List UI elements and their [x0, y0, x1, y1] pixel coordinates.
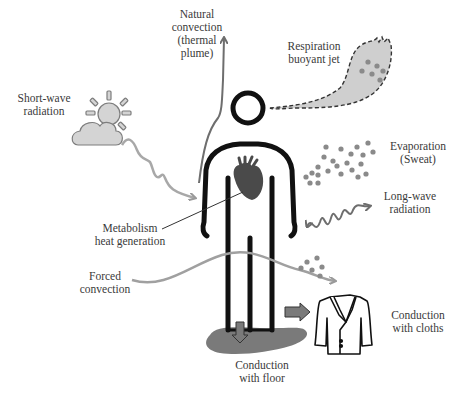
label-metabolism: Metabolism heat generation — [90, 222, 170, 248]
heat-transfer-diagram: Natural convection (thermal plume) Respi… — [0, 0, 462, 395]
label-short-wave: Short-wave radiation — [8, 92, 80, 118]
label-conduction-cloths: Conduction with cloths — [378, 309, 458, 335]
short-wave-radiation-arrow — [122, 140, 195, 198]
jacket-icon — [315, 295, 372, 354]
label-respiration: Respiration buoyant jet — [274, 40, 354, 66]
sweat-droplets-icon — [303, 140, 375, 185]
heart-icon — [234, 157, 264, 200]
label-forced-convection: Forced convection — [70, 270, 140, 296]
sun-cloud-icon — [72, 91, 131, 145]
human-body-icon — [203, 93, 295, 330]
label-conduction-floor: Conduction with floor — [222, 359, 302, 385]
label-evaporation: Evaporation (Sweat) — [378, 140, 458, 166]
label-natural-convection: Natural convection (thermal plume) — [162, 8, 232, 60]
forced-convection-arrow — [132, 252, 335, 282]
cloths-conduction-arrow — [285, 303, 310, 321]
label-long-wave: Long-wave radiation — [370, 190, 450, 216]
forced-convection-droplets — [298, 255, 324, 278]
long-wave-radiation-arrow — [307, 205, 370, 227]
